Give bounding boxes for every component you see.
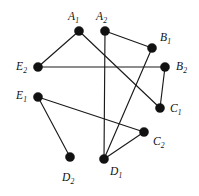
graph-edge-A1-C1: [79, 31, 160, 108]
graph-edge-B2-C1: [160, 67, 165, 108]
vertex-label-sub-E1: 1: [23, 95, 27, 104]
vertex-label-sub-D2: 2: [70, 177, 74, 186]
graph-vertex-A1: [74, 26, 83, 35]
vertex-label-E2: E2: [16, 61, 27, 75]
vertex-label-base-C1: C: [170, 102, 178, 114]
graph-edge-A2-B1: [105, 31, 152, 48]
vertex-label-C1: C1: [170, 103, 182, 117]
vertex-label-C2: C2: [153, 136, 165, 150]
graph-vertex-C1: [155, 103, 164, 112]
vertex-label-sub-A1: 1: [75, 16, 79, 25]
graph-edge-A2-D1: [104, 31, 105, 159]
vertex-label-B1: B1: [160, 32, 171, 46]
graph-edge-A1-E2: [38, 31, 79, 67]
graph-vertex-B1: [147, 43, 156, 52]
vertex-label-sub-B1: 1: [167, 37, 171, 46]
graph-vertex-D1: [99, 154, 108, 163]
graph-vertex-B2: [160, 62, 169, 71]
graph-vertex-D2: [65, 152, 74, 161]
vertex-label-base-C2: C: [153, 135, 161, 147]
vertex-label-sub-D1: 1: [118, 171, 122, 180]
vertex-label-E1: E1: [16, 90, 27, 104]
vertex-label-A2: A2: [96, 11, 107, 25]
vertex-label-D1: D1: [110, 166, 122, 180]
vertex-label-A1: A1: [68, 11, 79, 25]
vertex-layer: [33, 26, 169, 163]
vertex-label-sub-C1: 1: [178, 108, 182, 117]
graph-vertex-E1: [33, 92, 42, 101]
vertex-label-sub-E2: 2: [23, 66, 27, 75]
graph-vertex-E2: [33, 62, 42, 71]
vertex-label-sub-C2: 2: [161, 141, 165, 150]
graph-diagram: A1A2B1B2C1C2D1D2E1E2: [0, 0, 199, 196]
graph-vertex-C2: [139, 127, 148, 136]
vertex-label-D2: D2: [62, 172, 74, 186]
edge-layer: [38, 31, 165, 159]
vertex-label-sub-A2: 2: [103, 16, 107, 25]
vertex-label-B2: B2: [176, 61, 187, 75]
graph-canvas: [0, 0, 199, 196]
graph-vertex-A2: [100, 26, 109, 35]
vertex-label-sub-B2: 2: [183, 66, 187, 75]
